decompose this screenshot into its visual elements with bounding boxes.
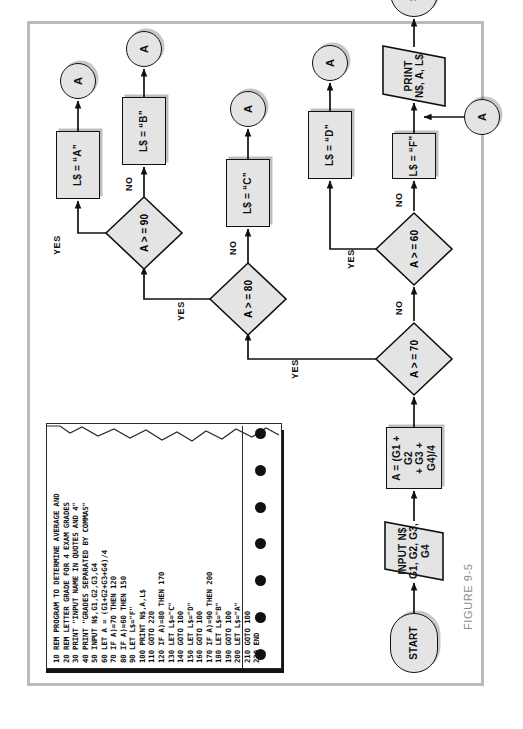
code-line: 120 IF A)=80 THEN 170	[157, 429, 167, 663]
code-line: 110 GOTO 220	[147, 429, 157, 663]
node-print: PRINT N$, A, L$	[382, 45, 446, 107]
sprocket-hole-strip	[242, 426, 278, 668]
edge-label-yes-60: YES	[346, 249, 356, 269]
node-decision-90: A > = 90	[104, 195, 184, 271]
node-decision-90-label: A > = 90	[139, 214, 150, 252]
connector-label: A	[324, 59, 337, 67]
code-line: 140 GOTO 100	[176, 429, 186, 663]
node-decision-70: A > = 70	[374, 321, 454, 397]
code-line: 130 LET L$="C"	[167, 429, 177, 663]
connector-a-from-grade-a: A	[60, 63, 96, 99]
code-line: 10 REM PROGRAM TO DETERMINE AVERAGE AND	[52, 429, 62, 663]
node-average: A = (G1 + G2 + G3 + G4)/4	[386, 427, 442, 489]
sprocket-hole	[255, 539, 266, 550]
connector-label: A	[476, 113, 489, 121]
node-print-label: PRINT N$, A, L$	[403, 45, 426, 107]
connector-a-from-grade-d: A	[312, 45, 348, 81]
code-line: 70 IF A)=70 THEN 120	[109, 429, 119, 663]
code-line: 20 REM LETTER GRADE FOR 4 EXAM GRADES	[62, 429, 72, 663]
node-decision-60: A > = 60	[374, 211, 454, 287]
code-line: 100 PRINT N$,A,L$	[138, 429, 148, 663]
sprocket-hole	[255, 428, 266, 439]
node-grade-a-label: L$ = “A”	[72, 144, 84, 186]
figure-page: START INPUT N$ G1, G2, G3, G4 A = (G1 + …	[0, 0, 523, 729]
code-line: 30 PRINT "INPUT NAME IN QUOTES AND 4"	[71, 429, 81, 663]
node-grade-c-label: L$ = “C”	[242, 172, 254, 214]
figure-caption: FIGURE 9-5	[462, 563, 474, 630]
code-line: 60 LET A = (G1+G2+G3+G4)/4	[100, 429, 110, 663]
edge-label-yes-80: YES	[176, 301, 186, 321]
edge-label-no-90: NO	[124, 176, 134, 191]
connector-label: A	[242, 105, 255, 113]
node-grade-c: L$ = “C”	[226, 159, 270, 227]
code-line: 190 GOTO 100	[224, 429, 234, 663]
node-stop-label: STOP	[408, 0, 420, 1]
code-line: 150 LET L$="D"	[186, 429, 196, 663]
edge-label-no-80: NO	[228, 240, 238, 255]
edge-label-no-70: NO	[394, 300, 404, 315]
node-grade-a: L$ = “A”	[56, 131, 100, 199]
node-average-label: A = (G1 + G2 + G3 + G4)/4	[391, 428, 437, 488]
connector-a-from-grade-c: A	[230, 91, 266, 127]
node-decision-80-label: A > = 80	[243, 280, 254, 318]
edge-label-yes-90: YES	[52, 235, 62, 255]
connector-label: A	[72, 77, 85, 85]
node-grade-d-label: L$ = “D”	[324, 124, 336, 166]
printout-rotated-wrapper: 10 REM PROGRAM TO DETERMINE AVERAGE AND2…	[46, 423, 289, 673]
code-line: 180 LET L$="B"	[214, 429, 224, 663]
node-grade-b: L$ = “B”	[122, 97, 166, 165]
connector-a-into-print: A	[464, 99, 500, 135]
node-decision-80: A > = 80	[208, 261, 288, 337]
connector-label: A	[138, 45, 151, 53]
sprocket-hole	[255, 465, 266, 476]
program-listing: 10 REM PROGRAM TO DETERMINE AVERAGE AND2…	[52, 429, 262, 663]
code-line: 170 IF A)=90 THEN 200	[205, 429, 215, 663]
sprocket-hole	[255, 612, 266, 623]
node-start: START	[390, 613, 438, 673]
node-grade-f-label: L$ = “F”	[408, 136, 420, 177]
node-decision-60-label: A > = 60	[409, 230, 420, 268]
node-decision-70-label: A > = 70	[409, 340, 420, 378]
code-line: 90 LET L$="F"	[128, 429, 138, 663]
edge-label-no-60: NO	[394, 192, 404, 207]
sprocket-hole	[255, 575, 266, 586]
node-grade-f: L$ = “F”	[392, 133, 436, 179]
node-start-label: START	[408, 626, 420, 660]
node-stop: STOP	[390, 0, 438, 17]
code-line: 40 PRINT "GRADES SEPARATED BY COMMAS"	[81, 429, 91, 663]
program-printout: 10 REM PROGRAM TO DETERMINE AVERAGE AND2…	[46, 423, 289, 673]
code-line: 160 GOTO 100	[195, 429, 205, 663]
code-line: 80 IF A)=60 THEN 150	[119, 429, 129, 663]
sprocket-hole	[255, 502, 266, 513]
connector-a-from-grade-b: A	[126, 31, 162, 67]
node-input: INPUT N$ G1, G2, G3, G4	[384, 521, 444, 581]
node-grade-b-label: L$ = “B”	[138, 110, 150, 152]
code-line: 50 INPUT N$,G1,G2,G3,G4	[90, 429, 100, 663]
node-grade-d: L$ = “D”	[308, 111, 352, 179]
node-input-label: INPUT N$ G1, G2, G3, G4	[397, 521, 432, 581]
sprocket-hole	[255, 649, 266, 660]
edge-label-yes-70: YES	[290, 359, 300, 379]
